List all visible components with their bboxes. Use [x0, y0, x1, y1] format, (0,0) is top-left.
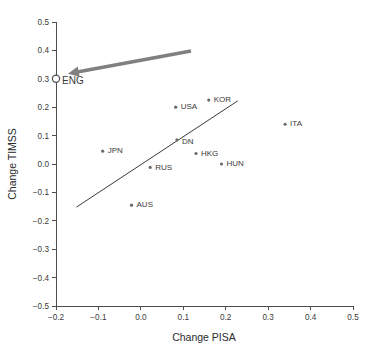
- point-label-usa: USA: [181, 102, 198, 111]
- y-tick-label: −0.5: [33, 302, 50, 311]
- point-label-hun: HUN: [226, 159, 244, 168]
- point-label-jpn: JPN: [108, 146, 123, 155]
- point-marker: [149, 166, 152, 169]
- data-point-dn: DN: [175, 137, 193, 146]
- x-tick-label: −0.2: [48, 313, 65, 322]
- point-marker-open: [52, 75, 59, 82]
- y-tick-label: −0.4: [33, 274, 50, 283]
- data-point-eng: ENG: [52, 75, 83, 86]
- x-tick-label: 0.0: [135, 313, 147, 322]
- scatter-plot-figure: −0.2−0.10.00.10.20.30.40.5 0.50.40.30.20…: [0, 0, 368, 353]
- point-label-kor: KOR: [214, 95, 232, 104]
- y-tick-label: 0.4: [38, 46, 50, 55]
- point-marker: [175, 138, 178, 141]
- x-tick-label: 0.1: [178, 313, 190, 322]
- y-axis-title: Change TIMSS: [6, 128, 18, 200]
- y-tick-label: −0.1: [33, 188, 50, 197]
- y-tick-label: −0.2: [33, 217, 50, 226]
- x-tick-label: −0.1: [90, 313, 107, 322]
- point-marker: [220, 162, 223, 165]
- point-marker: [130, 204, 133, 207]
- point-marker: [101, 150, 104, 153]
- x-tick-label: 0.5: [347, 313, 359, 322]
- data-point-hun: HUN: [220, 159, 244, 168]
- eng-highlight-arrow: [68, 51, 191, 77]
- x-tick-label: 0.2: [220, 313, 232, 322]
- y-tick-label: 0.3: [38, 75, 50, 84]
- y-tick-label: −0.3: [33, 245, 50, 254]
- y-axis-ticks: 0.50.40.30.20.10.0−0.1−0.2−0.3−0.4−0.5: [33, 18, 56, 311]
- data-points: ENGJPNAUSRUSUSADNHKGKORHUNITA: [52, 75, 302, 209]
- plot-canvas: −0.2−0.10.00.10.20.30.40.5 0.50.40.30.20…: [0, 0, 368, 353]
- point-label-hkg: HKG: [201, 149, 218, 158]
- point-marker: [284, 123, 287, 126]
- y-tick-label: 0.5: [38, 18, 50, 27]
- data-point-usa: USA: [174, 102, 198, 111]
- x-axis-ticks: −0.2−0.10.00.10.20.30.40.5: [48, 306, 359, 322]
- point-label-rus: RUS: [155, 163, 172, 172]
- point-label-eng: ENG: [62, 75, 84, 86]
- point-marker: [194, 152, 197, 155]
- point-marker: [207, 99, 210, 102]
- point-label-dn: DN: [182, 137, 194, 146]
- data-point-ita: ITA: [284, 119, 303, 128]
- y-tick-label: 0.1: [38, 132, 50, 141]
- data-point-hkg: HKG: [194, 149, 218, 158]
- y-tick-label: 0.0: [38, 160, 50, 169]
- data-point-jpn: JPN: [101, 146, 123, 155]
- x-axis-title: Change PISA: [172, 331, 236, 343]
- data-point-rus: RUS: [149, 163, 172, 172]
- data-point-kor: KOR: [207, 95, 231, 104]
- y-tick-label: 0.2: [38, 103, 50, 112]
- point-label-aus: AUS: [137, 200, 153, 209]
- x-tick-label: 0.3: [262, 313, 274, 322]
- arrow-shaft: [77, 51, 191, 72]
- point-marker: [174, 106, 177, 109]
- point-label-ita: ITA: [290, 119, 303, 128]
- x-tick-label: 0.4: [305, 313, 317, 322]
- data-point-aus: AUS: [130, 200, 153, 209]
